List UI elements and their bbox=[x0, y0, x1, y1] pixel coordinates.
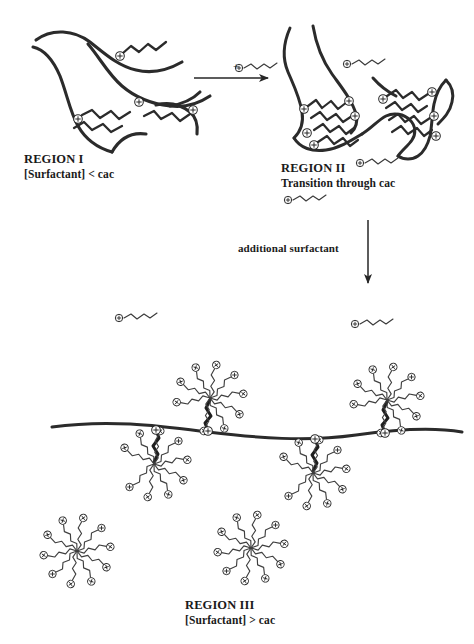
bound-micelle-lower-right bbox=[279, 435, 352, 511]
region-1-bound-surfactants bbox=[74, 42, 190, 132]
free-surfactant-left bbox=[115, 313, 157, 322]
figure-canvas: REGION I [Surfactant] < cac REGION II Tr… bbox=[0, 0, 474, 644]
region-2-free-surfactant-2 bbox=[356, 158, 398, 167]
region-1-title: REGION I bbox=[24, 152, 84, 167]
region-2-title: REGION II bbox=[281, 161, 345, 176]
bound-micelle-lower-left bbox=[120, 426, 193, 502]
region-2-free-surfactant-1 bbox=[343, 59, 385, 68]
bound-micelle-upper-left bbox=[171, 360, 248, 436]
region-1-polymer-chains bbox=[33, 32, 210, 152]
bound-micelle-upper-right bbox=[348, 362, 425, 438]
free-micelle-left bbox=[38, 513, 115, 589]
reactant-surfactant-icon bbox=[235, 63, 277, 72]
free-surfactant-right bbox=[351, 319, 393, 328]
region-1-subtitle: [Surfactant] < cac bbox=[24, 168, 114, 180]
additional-surfactant-label: additional surfactant bbox=[238, 242, 339, 254]
free-micelle-middle bbox=[212, 510, 289, 586]
region-3-title: REGION III bbox=[185, 598, 254, 613]
diagram-artwork bbox=[0, 0, 474, 644]
plus-sign-label: + bbox=[233, 60, 239, 72]
region-2-free-surfactant-3 bbox=[284, 195, 326, 204]
region-3-subtitle: [Surfactant] > cac bbox=[185, 614, 275, 626]
region-2-subtitle: Transition through cac bbox=[281, 177, 395, 189]
